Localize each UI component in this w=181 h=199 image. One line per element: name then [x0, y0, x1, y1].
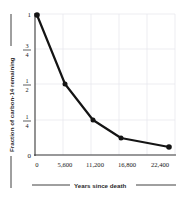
- ytick-3-4-numerator: 3: [25, 42, 28, 49]
- xtick-label-5600: 5,600: [58, 161, 74, 168]
- plot-background: [35, 14, 175, 155]
- ytick-label-1: 1: [28, 11, 32, 19]
- chart-svg: 1 3 4 1 2 1 4 0 0 5,600 11,200 16,800 22…: [0, 0, 181, 199]
- xtick-label-22400: 22,400: [151, 161, 170, 168]
- ytick-1-4-numerator: 1: [25, 113, 28, 120]
- data-point-4: [166, 144, 172, 150]
- ytick-1-2-numerator: 1: [25, 77, 28, 84]
- ytick-1-2-denominator: 2: [25, 86, 28, 93]
- y-axis-title: Fraction of carbon-14 remaining: [8, 57, 15, 152]
- ytick-label-one-half: 1 2: [23, 77, 31, 93]
- x-axis-title-group: Years since death: [32, 182, 176, 189]
- data-point-3: [119, 136, 124, 141]
- ytick-label-0: 0: [28, 152, 32, 160]
- x-axis-title: Years since death: [74, 182, 126, 189]
- data-point-2: [91, 118, 96, 123]
- carbon-14-decay-chart: 1 3 4 1 2 1 4 0 0 5,600 11,200 16,800 22…: [0, 0, 181, 199]
- data-point-0: [34, 12, 40, 18]
- data-point-1: [63, 82, 68, 87]
- xtick-label-11200: 11,200: [86, 161, 105, 168]
- y-axis-title-group: Fraction of carbon-14 remaining: [8, 14, 15, 188]
- ytick-label-one-quarter: 1 4: [23, 113, 31, 129]
- ytick-3-4-denominator: 4: [25, 51, 28, 58]
- xtick-label-0: 0: [35, 161, 39, 168]
- xtick-label-16800: 16,800: [118, 161, 137, 168]
- ytick-1-4-denominator: 4: [25, 122, 28, 129]
- ytick-label-three-quarters: 3 4: [23, 42, 31, 58]
